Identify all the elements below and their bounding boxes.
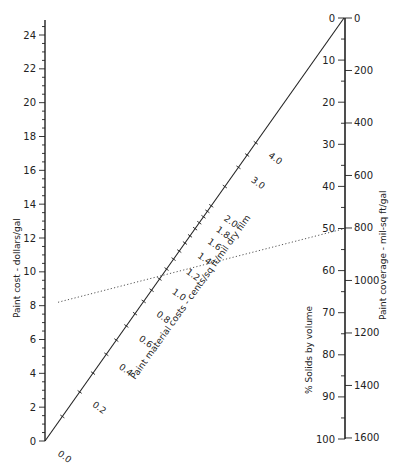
svg-text:0.0: 0.0 [56, 448, 74, 465]
svg-text:2: 2 [30, 402, 36, 413]
svg-text:4: 4 [30, 368, 36, 379]
coverage-axis-label: Paint coverage - mil-sq ft/gal [378, 191, 388, 320]
svg-text:0: 0 [329, 13, 335, 24]
svg-text:22: 22 [23, 63, 36, 74]
svg-text:10: 10 [23, 266, 36, 277]
svg-text:70: 70 [322, 307, 335, 318]
svg-text:18: 18 [23, 131, 36, 142]
svg-text:400: 400 [354, 117, 373, 128]
paint-cost-axis-label: Paint cost - dollars/gal [12, 218, 22, 318]
svg-text:4.0: 4.0 [267, 150, 285, 167]
svg-text:100: 100 [316, 434, 335, 445]
svg-text:8: 8 [30, 300, 36, 311]
example-dotted-line [58, 229, 345, 303]
solids-coverage-axis: 0102030405060708090100020040060080010001… [316, 13, 380, 445]
svg-text:1400: 1400 [354, 380, 379, 391]
svg-text:14: 14 [23, 199, 36, 210]
material-cost-diagonal-axis: 0.00.20.40.60.81.01.21.41.61.82.03.04.0 [45, 18, 344, 465]
svg-text:6: 6 [30, 334, 36, 345]
svg-text:16: 16 [23, 165, 36, 176]
svg-text:60: 60 [322, 265, 335, 276]
svg-text:40: 40 [322, 181, 335, 192]
svg-text:0: 0 [30, 436, 36, 447]
svg-text:800: 800 [354, 222, 373, 233]
svg-text:20: 20 [23, 97, 36, 108]
svg-text:90: 90 [322, 391, 335, 402]
svg-text:30: 30 [322, 139, 335, 150]
svg-text:80: 80 [322, 349, 335, 360]
paint-cost-axis: 024681012141618202224 [23, 20, 45, 447]
svg-text:3.0: 3.0 [249, 175, 267, 192]
svg-text:10: 10 [322, 55, 335, 66]
svg-text:20: 20 [322, 97, 335, 108]
svg-text:600: 600 [354, 170, 373, 181]
nomograph: 024681012141618202224 010203040506070809… [0, 0, 402, 469]
svg-text:200: 200 [354, 65, 373, 76]
svg-text:1200: 1200 [354, 327, 379, 338]
svg-text:0: 0 [354, 13, 360, 24]
svg-text:24: 24 [23, 30, 36, 41]
svg-text:1600: 1600 [354, 432, 379, 443]
svg-text:1000: 1000 [354, 275, 379, 286]
solids-axis-label: % Solids by volume [304, 305, 314, 394]
svg-text:12: 12 [23, 233, 36, 244]
svg-text:0.2: 0.2 [91, 399, 108, 415]
